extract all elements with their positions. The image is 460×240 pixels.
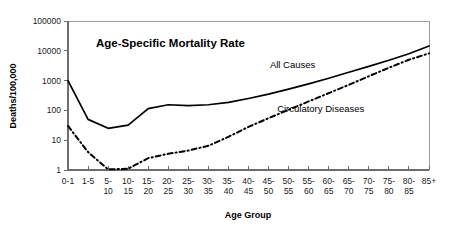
age-specific-mortality-rate-chart: 110100100010000100000 0-11-55-1010-1515-… xyxy=(0,0,460,240)
x-tick-label: 1-5 xyxy=(82,176,95,186)
series-annotations: All CausesCirculatory Diseases xyxy=(270,59,365,114)
series-line-all-causes xyxy=(68,46,429,128)
x-tick-label: 15-20 xyxy=(142,176,154,196)
y-tick-label: 10 xyxy=(52,135,62,145)
series-label-all-causes: All Causes xyxy=(270,59,316,70)
x-tick-label: 50-55 xyxy=(282,176,294,196)
x-tick-label: 70-75 xyxy=(363,176,375,196)
y-axis-ticks: 110100100010000100000 xyxy=(33,16,68,175)
x-tick-label: 0-1 xyxy=(62,176,75,186)
x-tick-label: 5-10 xyxy=(103,176,113,196)
y-tick-label: 1 xyxy=(56,165,61,175)
x-tick-label: 45-50 xyxy=(262,176,274,196)
chart-page: 110100100010000100000 0-11-55-1010-1515-… xyxy=(0,0,460,240)
x-tick-label: 10-15 xyxy=(122,176,134,196)
series-line-circulatory-diseases xyxy=(68,53,429,169)
x-tick-label: 55-60 xyxy=(303,176,315,196)
x-axis-title: Age Group xyxy=(225,210,272,220)
y-tick-label: 1000 xyxy=(42,76,61,86)
x-tick-label: 75-80 xyxy=(383,176,395,196)
series-container xyxy=(68,46,429,169)
y-tick-label: 100000 xyxy=(33,16,62,26)
chart-title: Age-Specific Mortality Rate xyxy=(96,37,245,49)
x-tick-label: 40-45 xyxy=(242,176,254,196)
x-tick-label: 25-30 xyxy=(182,176,194,196)
x-tick-label: 85+ xyxy=(422,176,436,186)
x-tick-label: 35-40 xyxy=(222,176,234,196)
series-label-circulatory-diseases: Circulatory Diseases xyxy=(277,103,364,114)
x-tick-label: 65-70 xyxy=(343,176,355,196)
y-tick-label: 100 xyxy=(47,105,61,115)
x-tick-label: 60-65 xyxy=(323,176,335,196)
x-tick-label: 30-35 xyxy=(202,176,214,196)
y-axis-title: Deaths/100,000 xyxy=(8,63,18,128)
x-tick-label: 20-25 xyxy=(162,176,174,196)
x-tick-label: 80-85 xyxy=(403,176,415,196)
y-tick-label: 10000 xyxy=(37,46,61,56)
